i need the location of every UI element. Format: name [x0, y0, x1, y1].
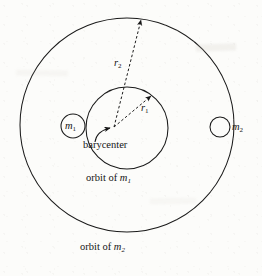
outer-orbit-caption: orbit of m2 — [80, 242, 125, 254]
body-m2-circle — [210, 117, 230, 137]
r2-label: r2 — [114, 58, 122, 70]
body-m2-label: m2 — [232, 122, 243, 134]
outer-orbit-circle — [20, 18, 234, 232]
barycenter-label: barycenter — [83, 140, 127, 151]
diagram-canvas — [0, 0, 262, 276]
barycenter-diagram: m1 m2 r1 r2 barycenter orbit of m1 orbit… — [0, 0, 262, 276]
r2-arrow — [114, 20, 141, 127]
inner-orbit-caption: orbit of m1 — [86, 173, 131, 185]
body-m1-label: m1 — [65, 121, 76, 133]
r1-label: r1 — [141, 103, 149, 115]
inner-orbit-circle — [86, 87, 168, 169]
